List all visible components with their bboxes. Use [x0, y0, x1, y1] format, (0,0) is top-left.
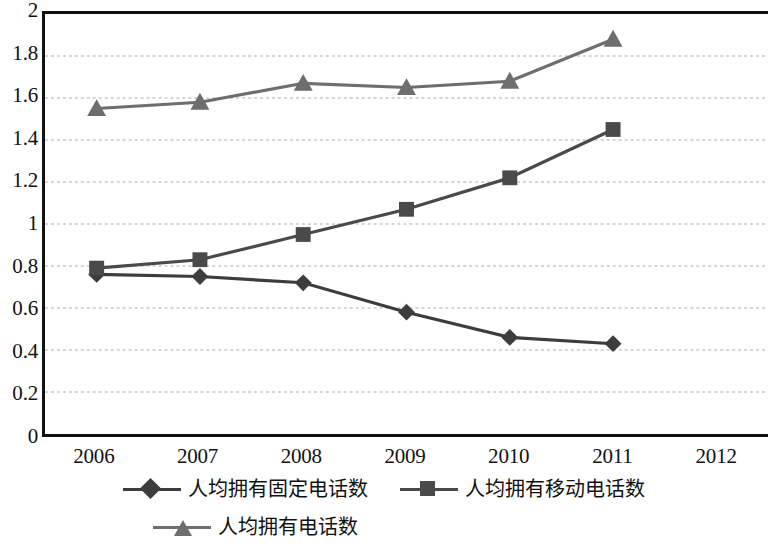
- data-point-marker: [605, 335, 622, 352]
- x-tick-label: 2011: [567, 443, 657, 469]
- y-tick-label: 1.6: [4, 85, 38, 106]
- y-tick-label: 1.8: [4, 43, 38, 64]
- y-tick-label: 0: [4, 426, 38, 447]
- data-point-marker: [398, 304, 415, 321]
- series-3: [87, 30, 622, 116]
- series-2: [89, 122, 620, 275]
- y-tick-label: 0.4: [4, 341, 38, 362]
- y-tick-label: 2: [4, 0, 38, 21]
- legend-row-secondary: 人均拥有电话数: [0, 516, 768, 538]
- legend-row-primary: 人均拥有固定电话数人均拥有移动电话数: [0, 478, 768, 500]
- data-point-marker: [296, 227, 311, 242]
- data-point-marker: [192, 252, 207, 267]
- x-tick-label: 2006: [49, 443, 139, 469]
- series-line: [97, 39, 613, 108]
- y-axis-tick-labels: 21.81.61.41.210.80.60.40.20: [0, 0, 38, 449]
- y-tick-label: 1.2: [4, 170, 38, 191]
- data-point-marker: [604, 30, 623, 47]
- x-tick-label: 2010: [464, 443, 554, 469]
- y-tick-label: 1.4: [4, 128, 38, 149]
- legend-label: 人均拥有固定电话数: [188, 478, 368, 500]
- legend-label: 人均拥有移动电话数: [465, 478, 645, 500]
- data-point-marker: [295, 274, 312, 291]
- y-tick-label: 1: [4, 213, 38, 234]
- series-line: [97, 130, 613, 269]
- legend-item[interactable]: 人均拥有移动电话数: [400, 478, 645, 500]
- legend-label: 人均拥有电话数: [218, 516, 358, 538]
- x-tick-label: 2008: [256, 443, 346, 469]
- x-tick-label: 2012: [671, 443, 761, 469]
- legend-marker-diamond: [140, 478, 161, 499]
- data-point-marker: [89, 261, 104, 276]
- legend-marker-triangle: [174, 520, 192, 536]
- x-axis-tick-labels: 2006200720082009201020112012: [42, 443, 768, 473]
- x-tick-label: 2007: [153, 443, 243, 469]
- y-tick-label: 0.2: [4, 383, 38, 404]
- y-tick-label: 0.6: [4, 298, 38, 319]
- data-point-marker: [399, 202, 414, 217]
- y-tick-label: 0.8: [4, 256, 38, 277]
- plot-area: [42, 11, 768, 437]
- legend-diamond-icon: [123, 478, 181, 500]
- legend-item[interactable]: 人均拥有固定电话数: [123, 478, 368, 500]
- legend-triangle-icon: [153, 516, 211, 538]
- data-point-marker: [501, 329, 518, 346]
- data-point-marker: [606, 122, 621, 137]
- series-line: [97, 274, 613, 343]
- legend-marker-square: [420, 481, 435, 496]
- legend-item[interactable]: 人均拥有电话数: [153, 516, 358, 538]
- x-tick-label: 2009: [360, 443, 450, 469]
- legend-square-icon: [400, 478, 458, 500]
- line-chart: 21.81.61.41.210.80.60.40.20 200620072008…: [0, 0, 768, 554]
- data-series-layer: [45, 14, 768, 434]
- data-point-marker: [502, 170, 517, 185]
- series-1: [88, 266, 621, 352]
- data-point-marker: [191, 268, 208, 285]
- chart-legend: 人均拥有固定电话数人均拥有移动电话数 人均拥有电话数: [0, 478, 768, 554]
